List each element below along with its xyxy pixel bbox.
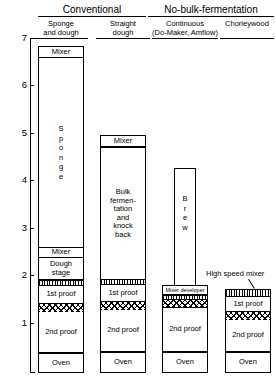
stage-second-proof[interactable]: 2nd proof <box>163 307 207 352</box>
stage-first-proof-label: 1st proof <box>45 290 76 299</box>
column-header-sponge-and-dough-line2: and dough <box>34 29 88 38</box>
column-header-chorleywood-line1: Chorleywood <box>220 20 274 29</box>
stage-sponge-letter-4: n <box>59 153 63 163</box>
stage-mixer-developer-label: Mixer developer <box>164 287 205 293</box>
stage-brew-letter-2: r <box>184 204 187 214</box>
y-axis-tick-7 <box>30 38 34 39</box>
stage-mixer-label: Mixer <box>51 48 71 57</box>
group-header-no-bulk-fermentation-label: No-bulk-fermentation <box>164 4 257 15</box>
stage-first-proof[interactable]: 1st proof <box>226 297 270 311</box>
stage-sponge-letter-3: o <box>59 143 63 153</box>
high-speed-mixer-leader-line <box>248 279 255 289</box>
column-straight-dough[interactable]: Mixer Bulk fermen- tation and knock back… <box>100 135 146 373</box>
stage-sponge[interactable]: S p o n g e <box>39 58 83 247</box>
stage-sponge-letter-6: e <box>59 172 63 182</box>
column-header-straight-dough: Straight dough <box>96 20 150 39</box>
column-header-straight-dough-line2: dough <box>96 29 150 38</box>
stage-second-proof-label: 2nd proof <box>106 326 140 335</box>
stage-first-proof-label: 1st proof <box>107 289 138 298</box>
stage-sponge-letter-2: p <box>59 134 63 144</box>
stage-hatch-zigzag <box>163 300 207 307</box>
column-header-chorleywood-line2 <box>220 29 274 37</box>
stage-hatch-vertical <box>226 290 270 297</box>
y-axis-ticklabel-2: 2 <box>13 270 27 280</box>
stage-second-proof[interactable]: 2nd proof <box>39 312 83 353</box>
stage-oven[interactable]: Oven <box>226 352 270 372</box>
y-axis-ticklabel-1: 1 <box>13 318 27 328</box>
group-header-conventional-label: Conventional <box>63 4 121 15</box>
y-axis-tick-6 <box>30 85 34 86</box>
y-axis-tick-2 <box>30 275 34 276</box>
stage-brew-letter-3: e <box>183 213 187 223</box>
stage-sponge-letter-1: S <box>58 124 63 134</box>
stage-mixer-developer[interactable]: Mixer developer <box>163 286 207 295</box>
stage-high-speed-mixer-callout: High speed mixer <box>206 270 264 279</box>
stage-oven-label: Oven <box>238 358 258 367</box>
y-axis-tick-3 <box>30 228 34 229</box>
stage-oven[interactable]: Oven <box>101 352 145 372</box>
column-header-continuous: Continuous (Do-Maker, Amflow) <box>152 20 218 39</box>
stage-oven-label: Oven <box>175 358 195 367</box>
stage-brew-letter-1: B <box>182 194 187 204</box>
stage-second-proof-label: 2nd proof <box>168 325 202 334</box>
y-axis-tick-4 <box>30 180 34 181</box>
stage-second-proof[interactable]: 2nd proof <box>226 320 270 352</box>
stage-bulk-fermentation[interactable]: Bulk fermen- tation and knock back <box>101 147 145 279</box>
stage-oven[interactable]: Oven <box>39 353 83 372</box>
stage-high-speed-mixer-label: High speed mixer <box>206 269 264 278</box>
stage-first-proof[interactable]: 1st proof <box>39 286 83 303</box>
column-header-sponge-and-dough: Sponge and dough <box>34 20 88 39</box>
stage-first-proof[interactable]: 1st proof <box>101 285 145 301</box>
stage-second-proof-label: 2nd proof <box>44 328 78 337</box>
y-axis-ticklabel-5: 5 <box>13 128 27 138</box>
column-chorleywood[interactable]: 1st proof 2nd proof Oven <box>225 289 271 373</box>
stage-oven[interactable]: Oven <box>163 352 207 372</box>
stage-mixer-label: Mixer <box>113 137 133 146</box>
y-axis-ticklabel-7: 7 <box>13 33 27 43</box>
y-axis-bottom-cap <box>30 372 35 373</box>
y-axis-tick-5 <box>30 133 34 134</box>
stage-mixer[interactable]: Mixer <box>101 136 145 147</box>
stage-dough-stage[interactable]: Dough stage <box>39 258 83 280</box>
stage-first-proof-label: 1st proof <box>232 300 263 309</box>
stage-bulk-fermentation-line6: back <box>115 230 131 239</box>
group-header-conventional: Conventional <box>38 4 146 17</box>
column-sponge-and-dough[interactable]: Mixer S p o n g e Mixer Dough stage 1st … <box>38 46 84 373</box>
stage-sponge-letter-5: g <box>59 162 63 172</box>
y-axis-ticklabel-4: 4 <box>13 175 27 185</box>
y-axis-tick-1 <box>30 323 34 324</box>
stage-brew[interactable]: B r e w <box>174 168 196 291</box>
column-continuous[interactable]: Mixer developer 2nd proof Oven <box>162 285 208 373</box>
column-header-chorleywood: Chorleywood <box>220 20 274 39</box>
stage-mixer-2-label: Mixer <box>51 248 71 257</box>
stage-second-proof[interactable]: 2nd proof <box>101 310 145 352</box>
stage-second-proof-label: 2nd proof <box>231 331 265 340</box>
stage-mixer[interactable]: Mixer <box>39 47 83 58</box>
stage-brew-letters: B r e w <box>175 183 195 243</box>
y-axis-ticklabel-6: 6 <box>13 80 27 90</box>
y-axis-ticklabel-3: 3 <box>13 223 27 233</box>
stage-mixer-2[interactable]: Mixer <box>39 247 83 258</box>
stage-dough-stage-line2: stage <box>52 268 70 277</box>
stage-brew-letter-4: w <box>182 223 187 233</box>
stage-hatch-zigzag <box>101 301 145 310</box>
stage-hatch-zigzag <box>226 311 270 320</box>
stage-hatch-zigzag <box>39 303 83 312</box>
group-header-no-bulk-fermentation: No-bulk-fermentation <box>148 4 274 17</box>
stage-oven-label: Oven <box>51 359 71 368</box>
stage-oven-label: Oven <box>113 358 133 367</box>
column-header-continuous-line2: (Do-Maker, Amflow) <box>152 29 218 38</box>
